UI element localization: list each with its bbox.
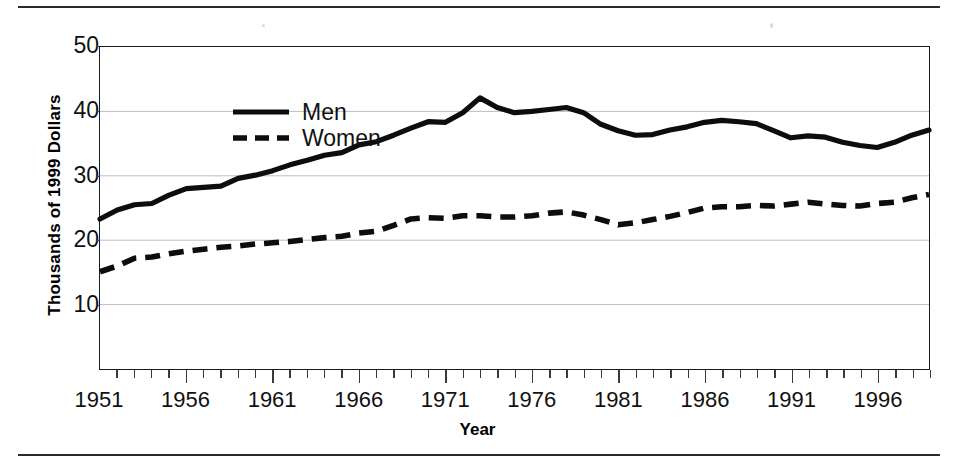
x-tick-major [878, 370, 879, 383]
legend-swatch-solid-icon [232, 102, 290, 122]
x-tick-minor [774, 370, 775, 378]
x-tick-minor [930, 370, 931, 378]
gridlines-group [100, 47, 929, 305]
x-tick-minor [895, 370, 896, 378]
x-tick-minor [809, 370, 810, 378]
x-tick-minor [913, 370, 914, 378]
plot-area: Men Women [99, 46, 930, 370]
legend-label-men: Men [302, 101, 347, 124]
series-line-women [100, 194, 929, 271]
x-tick-minor [168, 370, 169, 378]
x-tick-minor [220, 370, 221, 378]
x-tick-minor [428, 370, 429, 378]
x-tick-minor [116, 370, 117, 378]
x-tick-major [445, 370, 446, 383]
y-tick-label: 50 [55, 34, 99, 57]
x-tick-minor [203, 370, 204, 378]
x-tick-label: 1981 [573, 388, 663, 412]
x-tick-minor [255, 370, 256, 378]
x-tick-minor [636, 370, 637, 378]
x-tick-label: 1966 [314, 388, 404, 412]
legend-item-women: Women [232, 125, 452, 151]
series-layer [100, 47, 929, 369]
x-tick-label: 1996 [833, 388, 923, 412]
scan-speck [262, 24, 265, 27]
x-tick-minor [740, 370, 741, 378]
x-axis-tick-labels: 1951195619611966197119761981198619911996 [0, 388, 955, 416]
x-tick-label: 1976 [487, 388, 577, 412]
x-axis-title: Year [0, 420, 955, 440]
x-tick-minor [670, 370, 671, 378]
scan-speck [770, 23, 773, 28]
figure-container: 1020304050 Thousands of 1999 Dollars Men… [0, 0, 955, 466]
chart-legend: Men Women [232, 99, 452, 151]
x-tick-major [792, 370, 793, 383]
x-tick-minor [307, 370, 308, 378]
x-tick-minor [289, 370, 290, 378]
x-tick-major [272, 370, 273, 383]
legend-item-men: Men [232, 99, 452, 125]
x-tick-minor [722, 370, 723, 378]
x-tick-minor [411, 370, 412, 378]
legend-swatch-dashed-icon [232, 128, 290, 148]
x-tick-major [186, 370, 187, 383]
x-tick-label: 1961 [227, 388, 317, 412]
x-tick-minor [480, 370, 481, 378]
x-tick-minor [826, 370, 827, 378]
bottom-horizontal-rule [18, 454, 940, 456]
x-tick-minor [757, 370, 758, 378]
x-tick-minor [376, 370, 377, 378]
x-tick-label: 1991 [747, 388, 837, 412]
x-tick-minor [151, 370, 152, 378]
x-tick-minor [566, 370, 567, 378]
x-tick-minor [515, 370, 516, 378]
top-horizontal-rule [18, 6, 940, 8]
x-tick-minor [463, 370, 464, 378]
x-tick-minor [861, 370, 862, 378]
x-tick-minor [688, 370, 689, 378]
x-tick-minor [497, 370, 498, 378]
legend-label-women: Women [302, 127, 381, 150]
x-tick-minor [324, 370, 325, 378]
x-tick-major [705, 370, 706, 383]
x-tick-minor [584, 370, 585, 378]
x-axis-ticks [99, 370, 930, 384]
x-tick-minor [653, 370, 654, 378]
x-tick-label: 1986 [660, 388, 750, 412]
x-tick-minor [549, 370, 550, 378]
x-tick-major [532, 370, 533, 383]
x-tick-major [618, 370, 619, 383]
x-tick-label: 1951 [54, 388, 144, 412]
x-tick-minor [843, 370, 844, 378]
x-tick-major [359, 370, 360, 383]
x-tick-minor [393, 370, 394, 378]
y-axis-title: Thousands of 1999 Dollars [45, 55, 65, 355]
x-tick-minor [601, 370, 602, 378]
x-tick-label: 1956 [141, 388, 231, 412]
x-tick-label: 1971 [400, 388, 490, 412]
series-line-men [100, 98, 929, 219]
x-tick-minor [341, 370, 342, 378]
x-tick-minor [134, 370, 135, 378]
x-tick-minor [238, 370, 239, 378]
